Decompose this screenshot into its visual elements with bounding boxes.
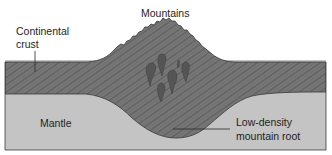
- mantle-label: Mantle: [40, 117, 72, 129]
- mountain-root-label-line1: Low-density: [236, 116, 293, 128]
- mountain-root-diagram: Mountains Continental crust Mantle Low-d…: [0, 0, 332, 155]
- continental-crust-label-line2: crust: [16, 38, 39, 50]
- continental-crust-label-line1: Continental: [16, 25, 69, 37]
- mountains-label: Mountains: [141, 7, 189, 19]
- mountain-root-label-line2: mountain root: [236, 130, 300, 142]
